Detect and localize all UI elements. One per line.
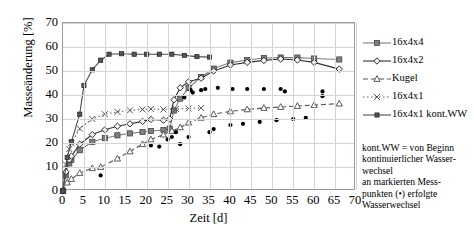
gridline-h — [63, 71, 354, 72]
chart-note: kont.WW = von Beginnkontinuierlicher Was… — [362, 142, 474, 210]
legend-label: 16x4x1 — [392, 90, 424, 101]
gridline-v — [147, 23, 148, 189]
gridline-v — [251, 23, 252, 189]
x-axis-tick-labels: 0510152025303540455055606570 — [62, 194, 355, 210]
note-line-1: kontinuierlicher Wasser- — [362, 153, 474, 164]
legend-label: 16x4x4 — [392, 36, 424, 47]
legend-symbol-icon — [362, 89, 392, 101]
legend-label: Kugel — [392, 72, 418, 83]
legend-item-0: 16x4x4 — [362, 32, 474, 50]
gridline-v — [230, 23, 231, 189]
legend-item-2: Kugel — [362, 68, 474, 86]
gridline-h — [63, 119, 354, 120]
note-line-0: kont.WW = von Beginn — [362, 142, 474, 153]
gridline-v — [210, 23, 211, 189]
legend-symbol-icon — [362, 107, 392, 119]
gridline-v — [272, 23, 273, 189]
note-line-5: Wasserwechsel — [362, 199, 474, 210]
chart-area: Masseänderung [%] 010203040506070 051015… — [0, 0, 360, 249]
gridline-h — [63, 95, 354, 96]
legend-symbol-icon — [362, 71, 392, 83]
plot-area — [62, 22, 355, 190]
legend-label: 16x4x1 kont.WW — [392, 108, 467, 119]
chart-figure: Masseänderung [%] 010203040506070 051015… — [0, 0, 474, 249]
legend-item-3: 16x4x1 — [362, 86, 474, 104]
y-tick-70: 70 — [2, 16, 58, 28]
y-tick-20: 20 — [2, 136, 58, 148]
x-axis-title: Zeit [d] — [62, 211, 355, 226]
legend-item-1: 16x4x2 — [362, 50, 474, 68]
legend-label: 16x4x2 — [392, 54, 424, 65]
gridline-h — [63, 167, 354, 168]
y-tick-50: 50 — [2, 64, 58, 76]
legend-symbol-icon — [362, 35, 392, 47]
y-axis-tick-labels: 010203040506070 — [0, 22, 58, 190]
series-1 — [60, 56, 343, 194]
gridline-v — [105, 23, 106, 189]
y-tick-10: 10 — [2, 160, 58, 172]
chart-legend: 16x4x416x4x2Kugel16x4x116x4x1 kont.WW — [362, 32, 474, 122]
gridline-v — [189, 23, 190, 189]
gridline-v — [168, 23, 169, 189]
legend-item-4: 16x4x1 kont.WW — [362, 104, 474, 122]
gridline-v — [84, 23, 85, 189]
gridline-v — [293, 23, 294, 189]
gridline-h — [63, 143, 354, 144]
gridline-v — [126, 23, 127, 189]
legend-symbol-icon — [362, 53, 392, 65]
note-line-2: wechsel — [362, 165, 474, 176]
gridline-h — [63, 23, 354, 24]
series-2 — [60, 100, 342, 193]
gridline-v — [335, 23, 336, 189]
y-tick-60: 60 — [2, 40, 58, 52]
note-line-4: punkten (•) erfolgte — [362, 188, 474, 199]
y-tick-30: 30 — [2, 112, 58, 124]
gridline-h — [63, 47, 354, 48]
gridline-v — [314, 23, 315, 189]
y-tick-40: 40 — [2, 88, 58, 100]
note-line-3: an markierten Mess- — [362, 176, 474, 187]
gridline-v — [356, 23, 357, 189]
